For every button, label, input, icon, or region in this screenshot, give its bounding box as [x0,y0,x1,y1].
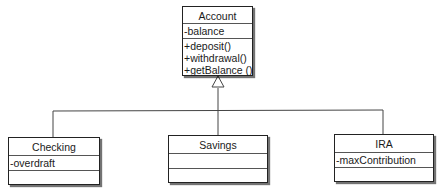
class-ira[interactable]: IRA -maxContribution [334,134,434,182]
class-operations [335,168,433,181]
class-operations [169,169,267,182]
attribute: -balance [184,25,251,37]
operation: +deposit() [184,40,251,52]
connector-horizontal-bar [53,110,383,111]
attribute: -overdraft [10,157,98,169]
class-attributes: -overdraft [9,156,99,171]
operation: +getBalance () [184,64,251,76]
operation: +withdrawal() [184,52,251,64]
class-name: Account [183,7,252,24]
class-attributes [169,154,267,169]
class-account[interactable]: Account -balance +deposit() +withdrawal(… [182,6,253,76]
class-operations: +deposit() +withdrawal() +getBalance () [183,39,252,77]
generalization-arrow-icon [212,76,224,87]
class-name: Checking [9,138,99,156]
attribute: -maxContribution [336,154,432,166]
class-attributes: -balance [183,24,252,39]
class-checking[interactable]: Checking -overdraft [8,137,100,185]
class-attributes: -maxContribution [335,153,433,168]
class-savings[interactable]: Savings [168,135,268,183]
class-name: Savings [169,136,267,154]
class-name: IRA [335,135,433,153]
class-operations [9,171,99,184]
